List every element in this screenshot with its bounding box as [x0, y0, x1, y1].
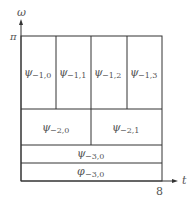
cell-psi-2-1: ψ −2,1 [112, 121, 139, 135]
svg-text:φ: φ [77, 165, 85, 178]
cell-psi-1-0: ψ −1,0 [24, 66, 51, 80]
y-axis-arrow-icon [19, 19, 23, 25]
cell-psi-3-0: ψ −3,0 [77, 147, 104, 161]
y-axis-tick-pi: π [9, 31, 17, 42]
x-axis-arrow-icon [172, 179, 178, 183]
cell-psi-1-2: ψ −1,2 [94, 66, 121, 80]
svg-text:−3,0: −3,0 [85, 152, 104, 161]
cell-psi-1-3: ψ −1,3 [130, 66, 157, 80]
cell-psi-2-0: ψ −2,0 [42, 121, 69, 135]
svg-text:−2,0: −2,0 [50, 126, 69, 135]
time-frequency-tiling-diagram: ω π t 8 ψ −1,0 ψ −1,1 ψ −1,2 ψ −1,3 ψ −2… [0, 0, 196, 207]
svg-text:−1,2: −1,2 [102, 71, 121, 80]
cell-phi-3-0: φ −3,0 [77, 165, 104, 179]
x-axis-label: t [182, 174, 187, 187]
svg-text:−1,1: −1,1 [67, 71, 86, 80]
x-axis-tick-8: 8 [156, 185, 163, 198]
y-axis-label: ω [17, 6, 26, 19]
svg-text:−1,3: −1,3 [138, 71, 157, 80]
svg-text:−2,1: −2,1 [120, 126, 139, 135]
svg-text:−3,0: −3,0 [85, 170, 104, 179]
svg-text:−1,0: −1,0 [32, 71, 51, 80]
cell-psi-1-1: ψ −1,1 [59, 66, 86, 80]
